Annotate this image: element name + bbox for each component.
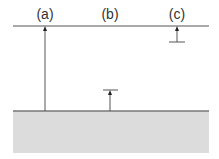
arrow-a-head-icon: [43, 26, 47, 31]
arrow-b-head-icon: [108, 90, 112, 95]
ground-block: [13, 111, 209, 153]
arrow-c-head-icon: [175, 26, 179, 31]
label-c: (c): [169, 6, 185, 22]
arrow-c: [169, 26, 185, 42]
arrow-a: [43, 26, 47, 111]
label-a: (a): [36, 6, 53, 22]
label-b: (b): [101, 6, 118, 22]
diagram-canvas: (a) (b) (c): [0, 0, 219, 159]
arrow-b: [103, 90, 118, 111]
